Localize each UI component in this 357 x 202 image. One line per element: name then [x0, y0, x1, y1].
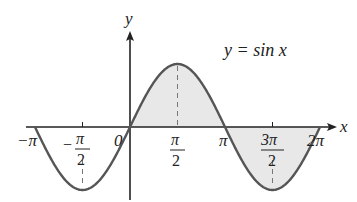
tick-label-neg-half-pi-num: π — [76, 130, 85, 147]
chart-canvas: y x y = sin x −π − π 2 0 π 2 π 3π 2 2π — [0, 0, 357, 202]
tick-label-half-pi-num: π — [171, 131, 180, 148]
tick-label-zero: 0 — [114, 131, 123, 150]
equation-text: y = sin x — [222, 40, 287, 60]
x-axis-label: x — [339, 117, 348, 136]
tick-label-neg-pi: −π — [17, 131, 37, 150]
equation-label: y = sin x — [222, 40, 287, 60]
tick-label-half-pi-den: 2 — [172, 152, 180, 169]
tick-label-two-pi: 2π — [307, 131, 325, 150]
y-axis-label: y — [123, 9, 133, 28]
tick-label-three-half-pi-num: 3π — [260, 131, 278, 148]
tick-label-pi: π — [219, 131, 228, 150]
tick-label-three-half-pi-den: 2 — [268, 152, 276, 169]
tick-label-neg-half-pi-den: 2 — [77, 151, 85, 168]
sine-graph: y x y = sin x −π − π 2 0 π 2 π 3π 2 2π — [0, 0, 357, 202]
tick-label-neg-half-pi-sign: − — [63, 136, 72, 153]
